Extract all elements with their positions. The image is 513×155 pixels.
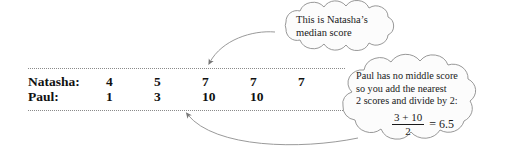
fraction-numerator: 3 + 10 bbox=[392, 112, 424, 124]
mean-cloud-line-1: Paul has no middle score bbox=[356, 70, 458, 83]
fraction: 3 + 10 2 bbox=[392, 112, 424, 137]
median-cloud-line-2: median score bbox=[296, 26, 368, 39]
median-cloud-line-1: This is Natasha’s bbox=[296, 13, 368, 26]
equation-result: = 6.5 bbox=[429, 117, 454, 132]
fraction-denominator: 2 bbox=[403, 125, 413, 137]
mean-cloud-text: Paul has no middle score so you add the … bbox=[356, 70, 458, 108]
mean-cloud-equation: 3 + 10 2 = 6.5 bbox=[392, 112, 454, 137]
median-cloud-text: This is Natasha’s median score bbox=[296, 13, 368, 39]
mean-cloud-line-2: so you add the nearest bbox=[356, 83, 458, 96]
diagram-canvas: Natasha: 4 5 7 7 7 Paul: 1 3 10 10 bbox=[0, 0, 513, 155]
mean-cloud-line-3: 2 scores and divide by 2: bbox=[356, 95, 458, 108]
